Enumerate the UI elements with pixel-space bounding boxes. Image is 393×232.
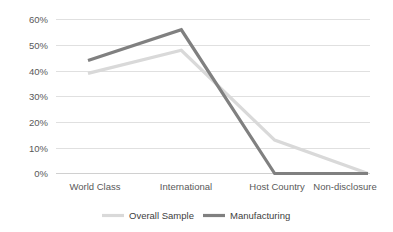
y-axis-labels: 60% 50% 40% 30% 20% 10% 0% (29, 14, 49, 179)
series-line-overall-sample (88, 50, 368, 173)
line-chart: 60% 50% 40% 30% 20% 10% 0% World Class I… (0, 0, 393, 232)
y-tick-label: 40% (29, 66, 49, 77)
x-axis-labels: World Class International Host Country N… (69, 181, 376, 192)
y-tick-label: 60% (29, 14, 49, 25)
series-lines (88, 30, 368, 174)
series-line-manufacturing (88, 30, 368, 174)
x-tick-label: Host Country (249, 181, 305, 192)
x-tick-label: World Class (69, 181, 120, 192)
y-tick-label: 20% (29, 117, 49, 128)
chart-legend: Overall Sample Manufacturing (102, 210, 290, 221)
y-tick-label: 50% (29, 40, 49, 51)
legend-label-manufacturing: Manufacturing (230, 210, 290, 221)
legend-label-overall-sample: Overall Sample (129, 210, 194, 221)
y-tick-label: 30% (29, 91, 49, 102)
gridlines (56, 20, 370, 174)
y-tick-label: 10% (29, 143, 49, 154)
y-tick-label: 0% (34, 168, 48, 179)
x-tick-label: International (160, 181, 212, 192)
chart-canvas: 60% 50% 40% 30% 20% 10% 0% World Class I… (0, 0, 393, 232)
x-tick-label: Non-disclosure (313, 181, 376, 192)
